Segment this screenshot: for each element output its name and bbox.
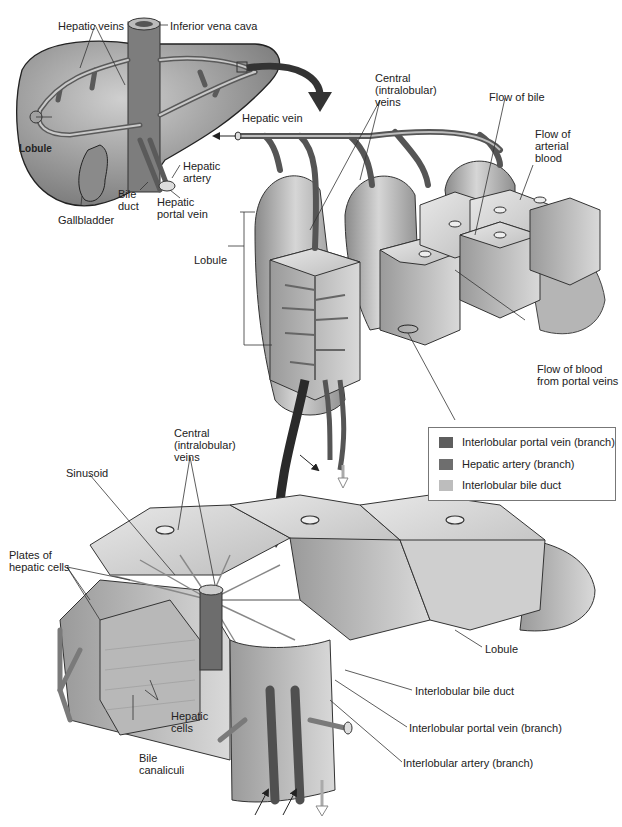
label-bile-duct-1: Bile bbox=[118, 188, 136, 200]
label-lobule-mid: Lobule bbox=[194, 254, 227, 266]
label-gallbladder: Gallbladder bbox=[58, 214, 114, 226]
label-sinusoid: Sinusoid bbox=[66, 467, 108, 479]
liver bbox=[16, 18, 279, 206]
legend-swatch-bile-duct bbox=[439, 480, 453, 491]
label-flow-of-bile: Flow of bile bbox=[489, 91, 545, 103]
label-central-veins-top-3: veins bbox=[375, 96, 401, 108]
legend-label-hepatic-artery: Hepatic artery (branch) bbox=[462, 458, 575, 470]
legend: Interlobular portal vein (branch) Hepati… bbox=[428, 427, 616, 501]
label-central-veins-top-2: (intralobular) bbox=[375, 84, 437, 96]
label-inferior-vena-cava: Inferior vena cava bbox=[170, 20, 257, 32]
legend-item-hepatic-artery: Hepatic artery (branch) bbox=[439, 457, 575, 471]
label-hepatic-vein: Hepatic vein bbox=[242, 112, 303, 124]
label-bile-canaliculi-1: Bile bbox=[139, 752, 157, 764]
legend-label-portal-vein: Interlobular portal vein (branch) bbox=[462, 436, 615, 448]
label-central-veins-top-1: Central bbox=[375, 72, 410, 84]
label-bile-canaliculi-2: canaliculi bbox=[139, 764, 184, 776]
label-hepatic-cells-1: Hepatic bbox=[171, 710, 208, 722]
label-flow-arterial-3: blood bbox=[535, 152, 562, 164]
legend-swatch-portal-vein bbox=[439, 437, 453, 448]
label-hepatic-artery-1: Hepatic bbox=[183, 160, 220, 172]
label-central-veins-bottom-2: (intralobular) bbox=[174, 439, 236, 451]
label-central-veins-bottom-1: Central bbox=[174, 427, 209, 439]
label-flow-arterial-2: arterial bbox=[535, 140, 569, 152]
label-interlobular-portal-vein: Interlobular portal vein (branch) bbox=[409, 722, 562, 734]
label-interlobular-artery: Interlobular artery (branch) bbox=[403, 757, 533, 769]
label-flow-arterial-1: Flow of bbox=[535, 128, 570, 140]
label-hepatic-veins: Hepatic veins bbox=[58, 20, 124, 32]
liver-lobule-illustration bbox=[0, 0, 622, 827]
label-interlobular-bile-duct: Interlobular bile duct bbox=[415, 685, 514, 697]
label-hepatic-portal-vein-1: Hepatic bbox=[157, 196, 194, 208]
label-lobule-liver: Lobule bbox=[19, 143, 52, 155]
label-flow-portal-1: Flow of blood bbox=[537, 363, 602, 375]
legend-item-bile-duct: Interlobular bile duct bbox=[439, 478, 561, 492]
label-plates-1: Plates of bbox=[9, 549, 52, 561]
label-hepatic-artery-2: artery bbox=[183, 172, 211, 184]
label-hepatic-cells-2: cells bbox=[171, 722, 193, 734]
label-hepatic-portal-vein-2: portal vein bbox=[157, 208, 208, 220]
label-bile-duct-2: duct bbox=[118, 200, 139, 212]
label-lobule-bottom: Lobule bbox=[485, 643, 518, 655]
legend-swatch-hepatic-artery bbox=[439, 459, 453, 470]
label-plates-2: hepatic cells bbox=[9, 561, 70, 573]
legend-label-bile-duct: Interlobular bile duct bbox=[462, 479, 561, 491]
label-central-veins-bottom-3: veins bbox=[174, 451, 200, 463]
legend-item-portal-vein: Interlobular portal vein (branch) bbox=[439, 435, 615, 449]
label-flow-portal-2: from portal veins bbox=[537, 375, 618, 387]
